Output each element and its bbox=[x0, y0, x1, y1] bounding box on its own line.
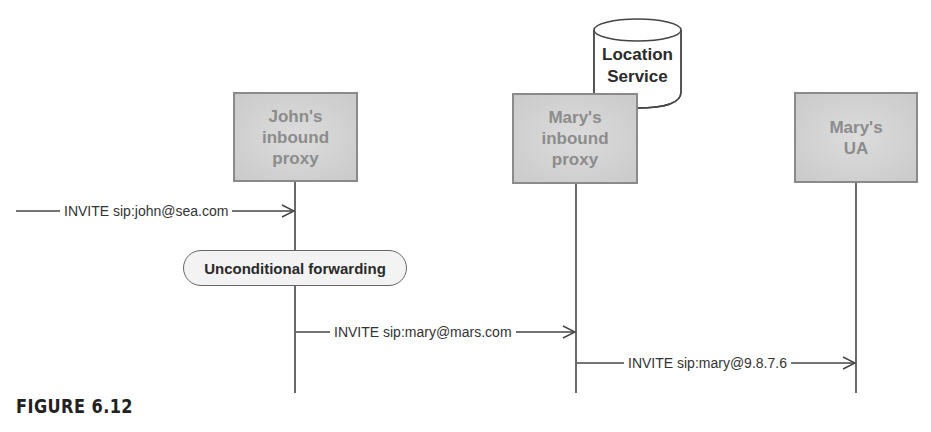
location-service-label: Location Service bbox=[594, 44, 681, 88]
message-label-3: INVITE sip:mary@9.8.7.6 bbox=[624, 355, 791, 371]
participant-label: Mary's inbound proxy bbox=[541, 107, 608, 170]
participant-label: Mary's UA bbox=[829, 117, 882, 159]
sip-forwarding-diagram: Location Service John's inbound proxy Ma… bbox=[0, 0, 931, 432]
unconditional-forwarding-annotation: Unconditional forwarding bbox=[183, 250, 407, 286]
message-label-1: INVITE sip:john@sea.com bbox=[60, 203, 232, 219]
annotation-label: Unconditional forwarding bbox=[204, 260, 386, 277]
participant-marys-ua: Mary's UA bbox=[794, 92, 918, 183]
participant-marys-inbound-proxy: Mary's inbound proxy bbox=[512, 93, 638, 184]
participant-label: John's inbound proxy bbox=[262, 106, 329, 169]
figure-caption: FIGURE 6.12 bbox=[16, 395, 133, 417]
message-label-2: INVITE sip:mary@mars.com bbox=[330, 324, 516, 340]
participant-johns-inbound-proxy: John's inbound proxy bbox=[233, 92, 358, 182]
